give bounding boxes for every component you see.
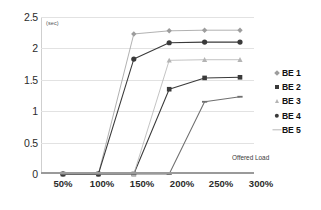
x-axis-line: [41, 172, 254, 174]
x-tick-label: 100%: [90, 178, 114, 189]
y-unit-label: (sec): [46, 20, 59, 26]
y-tick-label: 0.5: [24, 137, 38, 149]
legend-label: BE 4: [282, 111, 301, 121]
y-tick-label: 2.5: [24, 11, 38, 23]
x-axis-title: Offered Load: [232, 154, 269, 161]
series-lines: [41, 17, 254, 174]
y-tick-label: 1: [32, 105, 38, 117]
x-tick-label: 300%: [249, 178, 273, 189]
legend-item-be-1[interactable]: BE 1: [272, 66, 321, 80]
x-tick-label: 250%: [209, 178, 233, 189]
legend-item-be-5[interactable]: BE 5: [272, 123, 321, 137]
legend-label: BE 2: [282, 82, 301, 92]
legend-item-be-2[interactable]: BE 2: [272, 80, 321, 94]
legend-item-be-4[interactable]: BE 4: [272, 109, 321, 123]
series-be-3: [60, 57, 242, 176]
legend-label: BE 3: [282, 96, 301, 106]
diamond-marker-icon: [272, 69, 281, 78]
series-be-2: [61, 75, 243, 176]
x-tick-label: 200%: [170, 178, 194, 189]
x-tick-label: 150%: [130, 178, 154, 189]
series-be-1: [60, 27, 242, 176]
circle-marker-icon: [272, 111, 281, 120]
y-tick-label: 0: [32, 168, 38, 180]
square-marker-icon: [272, 83, 281, 92]
legend-label: BE 5: [282, 125, 301, 135]
series-be-5: [60, 96, 242, 175]
legend-label: BE 1: [282, 68, 301, 78]
plot-area: [41, 17, 254, 174]
dash-marker-icon: [272, 125, 281, 134]
x-tick-label: 50%: [53, 178, 72, 189]
y-tick-label: 2: [32, 42, 38, 54]
triangle-marker-icon: [272, 97, 281, 106]
chart-container: 2.5 2 1.5 1 0.5 0 (sec) Offered Load 50%…: [0, 0, 321, 210]
y-tick-label: 1.5: [24, 74, 38, 86]
legend-item-be-3[interactable]: BE 3: [272, 94, 321, 108]
chart-legend: BE 1 BE 2 BE 3 BE 4 BE 5: [272, 66, 321, 137]
